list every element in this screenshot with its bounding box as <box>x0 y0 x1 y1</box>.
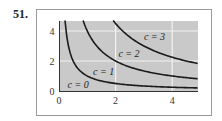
curve-label: c = 0 <box>67 79 88 90</box>
curve-label: c = 1 <box>93 66 114 77</box>
y-tick-labels: 024 <box>50 26 55 97</box>
y-tick-label: 4 <box>50 26 55 37</box>
curve-label: c = 3 <box>144 31 165 42</box>
curve-label: c = 2 <box>118 48 139 59</box>
y-tick-label: 2 <box>50 56 55 67</box>
x-tick-label: 4 <box>170 95 175 106</box>
x-tick-labels: 024 <box>57 95 175 106</box>
x-tick-label: 0 <box>57 95 62 106</box>
y-tick-label: 0 <box>50 86 55 97</box>
level-curve-plot: 024 024 c = 0c = 1c = 2c = 3 <box>0 0 222 121</box>
x-tick-label: 2 <box>113 95 118 106</box>
